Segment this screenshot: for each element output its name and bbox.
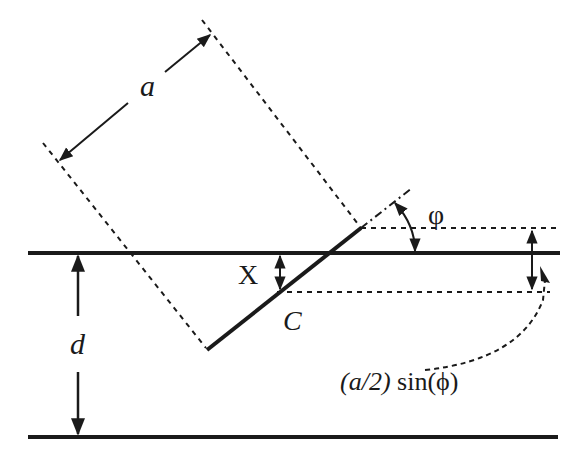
callout-curve <box>425 280 545 370</box>
width-label: a <box>140 69 155 102</box>
formula-label: (a/2) sin(ϕ) <box>340 367 458 396</box>
right-width-dashed-line <box>202 20 361 228</box>
diagram-canvas: a φ X C d (a/2) sin(ϕ) <box>0 0 587 458</box>
center-label: C <box>283 305 302 336</box>
left-width-dashed-line <box>43 143 206 348</box>
formula-italic-part: (a/2) <box>340 367 391 396</box>
thickness-label: d <box>70 327 86 360</box>
formula-rest-part: sin(ϕ) <box>391 367 459 396</box>
diagram-svg: a φ X C d (a/2) sin(ϕ) <box>0 0 587 458</box>
width-arrow-upper <box>165 35 210 72</box>
width-arrow-lower <box>60 103 128 160</box>
x-offset-label: X <box>238 259 258 290</box>
plate-extension-line <box>361 188 412 228</box>
callout-arrowhead-icon <box>540 266 550 283</box>
angle-label: φ <box>428 199 444 230</box>
